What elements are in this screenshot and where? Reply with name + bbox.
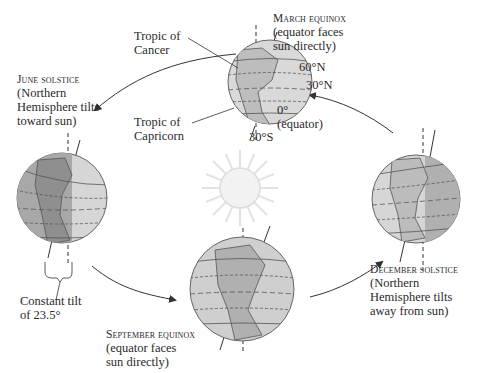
sun-icon <box>202 150 278 226</box>
label-lat-30s: 30°S <box>249 130 273 144</box>
march-title: March equinox <box>273 11 346 25</box>
tilt-bracket <box>45 262 72 282</box>
leader-tropic-capricorn <box>192 108 234 123</box>
september-title: September equinox <box>106 327 195 341</box>
orbit-arrow-june-to-september <box>92 266 175 300</box>
label-constant-tilt: Constant tilt of 23.5° <box>20 294 81 322</box>
label-lat-0: 0° (equator) <box>277 103 323 131</box>
june-title: June solstice <box>17 72 99 86</box>
label-tropic-cancer: Tropic of Cancer <box>134 29 180 57</box>
globe-december <box>372 150 465 250</box>
orbit-arrow-march-to-june <box>95 54 236 110</box>
label-june-solstice: June solstice (Northern Hemisphere tilts… <box>17 72 99 128</box>
label-tropic-capricorn: Tropic of Capricorn <box>134 115 184 143</box>
label-december-solstice: December solstice (Northern Hemisphere t… <box>370 262 458 318</box>
label-september-equinox: September equinox (equator faces sun dir… <box>106 327 195 369</box>
december-title: December solstice <box>370 262 458 276</box>
label-lat-30n: 30°N <box>306 78 333 92</box>
globe-september <box>190 237 294 341</box>
label-march-equinox: March equinox (equator faces sun directl… <box>273 11 346 53</box>
leader-tropic-cancer <box>188 38 238 68</box>
label-lat-60n: 60°N <box>299 60 326 74</box>
globe-june <box>15 150 110 250</box>
